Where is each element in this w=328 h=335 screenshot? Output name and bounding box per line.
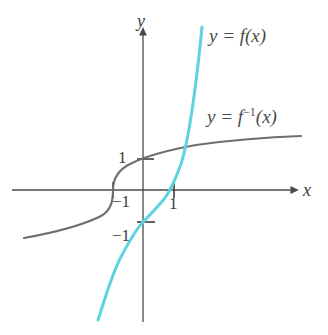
inverse-function-curve <box>24 136 301 238</box>
y-axis-label: y <box>137 12 145 30</box>
tick-label-x-negative-one: −1 <box>112 193 130 210</box>
inverse-function-graph-figure: y = f(x) y = f−1(x) y x 1 −1 −1 1 <box>0 0 328 335</box>
curve-label-f-inverse: y = f−1(x) <box>207 106 277 126</box>
curve-label-f-inverse-suffix: (x) <box>256 106 277 127</box>
function-curve <box>98 27 202 320</box>
curve-label-f: y = f(x) <box>209 26 266 45</box>
plot-canvas <box>0 0 328 335</box>
x-axis-label: x <box>303 181 311 199</box>
tick-label-x-one: 1 <box>169 195 178 212</box>
tick-label-y-negative-one: −1 <box>112 227 130 244</box>
tick-label-y-one: 1 <box>118 149 127 166</box>
curve-label-f-inverse-prefix: y = f <box>207 106 243 127</box>
curve-label-f-inverse-superscript: −1 <box>243 105 256 119</box>
